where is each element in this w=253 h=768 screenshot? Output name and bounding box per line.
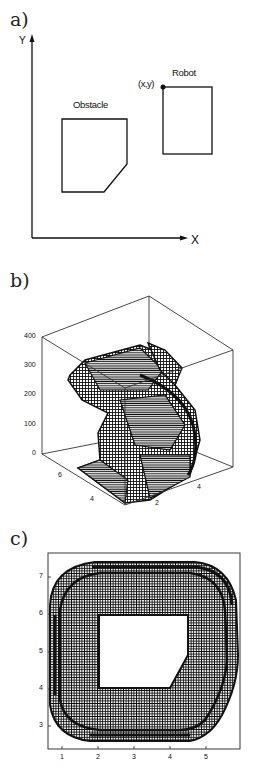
obstacle-label: Obstacle [73, 99, 108, 110]
z-tick-100: 100 [24, 420, 36, 427]
z-tick-200: 200 [24, 390, 36, 397]
reference-point-label: (x,y) [138, 78, 154, 89]
reference-point-dot [161, 85, 166, 90]
c-x-tick-4: 4 [168, 753, 172, 760]
c-x-tick-3: 3 [132, 753, 136, 760]
z-tick-0: 0 [32, 449, 36, 456]
c-y-tick-7: 7 [39, 572, 43, 579]
c-x-tick-5: 5 [204, 753, 208, 760]
x-tick-4: 4 [197, 483, 201, 490]
x-tick-2: 2 [155, 499, 159, 506]
c-y-tick-5: 5 [39, 647, 43, 654]
c-y-tick-4: 4 [39, 684, 43, 691]
panel-a-diagram [0, 0, 253, 255]
c-y-tick-3: 3 [39, 721, 43, 728]
panel-b-surface-plot [0, 255, 253, 520]
z-tick-300: 300 [24, 361, 36, 368]
panel-a: a) Y X Obstacle Robot (x,y) [0, 0, 253, 255]
c-x-tick-1: 1 [60, 753, 64, 760]
y-axis-label: Y [19, 35, 26, 46]
robot-label: Robot [172, 67, 196, 78]
panel-c: c) 7 6 5 4 3 [0, 515, 253, 768]
c-x-tick-2: 2 [96, 753, 100, 760]
robot-shape [163, 87, 212, 154]
y-tick-6: 6 [58, 471, 62, 478]
panel-c-wireframe-plot [0, 515, 253, 768]
y-tick-4: 4 [90, 495, 94, 502]
c-y-tick-6: 6 [39, 609, 43, 616]
obstacle-shape [62, 119, 127, 192]
x-axis-label: X [191, 233, 199, 247]
panel-b: b) [0, 255, 253, 520]
z-tick-400: 400 [24, 332, 36, 339]
